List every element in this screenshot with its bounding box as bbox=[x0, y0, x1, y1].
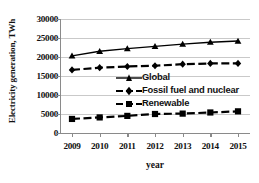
data-point-square bbox=[69, 116, 75, 122]
x-tick-mark bbox=[210, 133, 211, 137]
data-point-diamond bbox=[152, 62, 158, 69]
data-point-square bbox=[207, 109, 213, 115]
data-point-square bbox=[180, 111, 186, 117]
legend-item-renewable: Renewable bbox=[116, 96, 258, 108]
data-point-square bbox=[124, 113, 130, 119]
data-point-square bbox=[97, 114, 103, 120]
y-tick-label: 20000 bbox=[16, 52, 58, 62]
data-point-square bbox=[152, 111, 158, 117]
legend: Global Fossil fuel and nuclear Renewable bbox=[116, 70, 258, 109]
x-tick-mark bbox=[127, 133, 128, 137]
data-point-diamond bbox=[179, 61, 185, 68]
x-tick-mark bbox=[72, 133, 73, 137]
y-tick-label: 0 bbox=[16, 128, 58, 138]
data-point-diamond bbox=[96, 64, 102, 71]
x-tick-mark bbox=[238, 133, 239, 137]
legend-label-renewable: Renewable bbox=[142, 97, 189, 108]
data-point-diamond bbox=[235, 60, 241, 67]
data-point-diamond bbox=[207, 60, 213, 67]
x-tick-mark bbox=[155, 133, 156, 137]
y-tick-label: 10000 bbox=[16, 90, 58, 100]
x-tick-label: 2015 bbox=[218, 141, 258, 151]
data-point-square bbox=[235, 108, 241, 114]
legend-label-fossil: Fossil fuel and nuclear bbox=[142, 84, 239, 95]
y-tick-label: 25000 bbox=[16, 33, 58, 43]
x-tick-mark bbox=[100, 133, 101, 137]
y-tick-label: 15000 bbox=[16, 71, 58, 81]
x-tick-mark bbox=[183, 133, 184, 137]
legend-key-triangle-icon bbox=[116, 70, 142, 82]
x-axis-title: year bbox=[60, 160, 250, 170]
legend-key-diamond-icon bbox=[116, 83, 142, 95]
legend-key-square-icon bbox=[116, 96, 142, 108]
y-axis-tick-labels: 050001000015000200002500030000 bbox=[14, 0, 58, 183]
y-tick-label: 30000 bbox=[16, 14, 58, 24]
legend-item-fossil: Fossil fuel and nuclear bbox=[116, 83, 258, 95]
y-tick-label: 5000 bbox=[16, 109, 58, 119]
legend-label-global: Global bbox=[142, 71, 170, 82]
series-global bbox=[69, 38, 242, 59]
y-tick-mark bbox=[56, 133, 60, 134]
line-chart: Electricity generation, TWh 050001000015… bbox=[0, 0, 259, 183]
series-renewable bbox=[69, 108, 241, 122]
legend-item-global: Global bbox=[116, 70, 258, 82]
data-point-diamond bbox=[69, 66, 75, 73]
